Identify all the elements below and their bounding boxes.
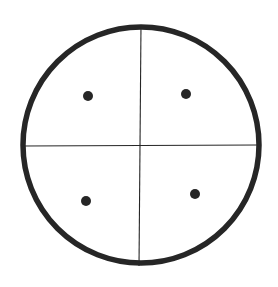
horizontal-divider-line bbox=[23, 145, 258, 146]
dot-bottom-right bbox=[190, 189, 200, 199]
quadrant-circle-diagram bbox=[0, 0, 278, 287]
dot-top-right bbox=[181, 89, 191, 99]
dot-bottom-left bbox=[81, 196, 91, 206]
diagram-canvas bbox=[0, 0, 278, 287]
dot-top-left bbox=[83, 91, 93, 101]
